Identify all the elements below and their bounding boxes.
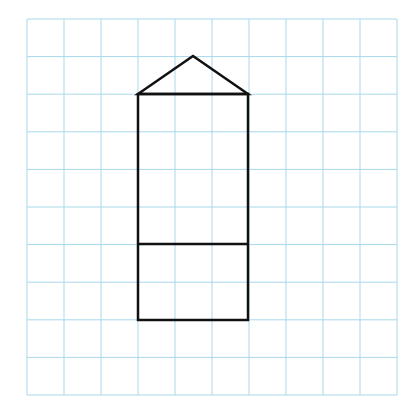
grid-diagram bbox=[0, 0, 411, 407]
grid-lines bbox=[27, 19, 397, 395]
roof-triangle bbox=[138, 56, 248, 94]
shape-outline bbox=[138, 56, 248, 320]
